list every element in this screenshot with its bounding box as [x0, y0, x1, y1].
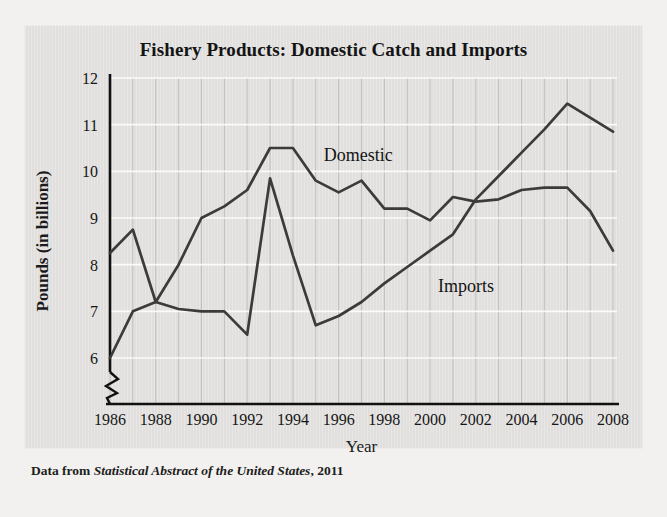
x-tick-label: 2006	[551, 411, 583, 428]
x-tick-label: 2008	[597, 411, 629, 428]
x-tick-label: 2002	[460, 411, 492, 428]
caption-lead: Data from	[31, 463, 94, 478]
axes	[106, 74, 619, 404]
y-tick-label: 6	[90, 350, 98, 367]
y-axis-title: Pounds (in billions)	[33, 171, 52, 312]
x-tick-label: 1990	[185, 411, 217, 428]
y-axis-tick-labels: 6789101112	[82, 70, 98, 367]
x-tick-label: 1988	[140, 411, 172, 428]
figure-container: Fishery Products: Domestic Catch and Imp…	[0, 0, 667, 517]
series-label-imports: Imports	[438, 276, 494, 296]
line-chart-plot: 6789101112198619881990199219941996199820…	[0, 0, 667, 517]
y-tick-label: 9	[90, 210, 98, 227]
x-tick-label: 1986	[94, 411, 126, 428]
caption-tail: , 2011	[310, 463, 343, 478]
x-tick-label: 1992	[231, 411, 263, 428]
series-label-domestic: Domestic	[324, 145, 393, 165]
x-tick-label: 2004	[506, 411, 538, 428]
x-axis-tick-labels: 1986198819901992199419961998200020022004…	[94, 411, 629, 428]
figure-caption: Data from Statistical Abstract of the Un…	[31, 463, 343, 479]
series-annotations: DomesticImports	[324, 145, 494, 296]
caption-source-title: Statistical Abstract of the United State…	[94, 463, 311, 478]
y-tick-label: 8	[90, 257, 98, 274]
x-axis-title: Year	[346, 437, 378, 456]
y-tick-label: 11	[83, 117, 98, 134]
x-tick-label: 1994	[277, 411, 309, 428]
x-tick-label: 1998	[368, 411, 400, 428]
y-tick-label: 12	[82, 70, 98, 87]
gridlines-vertical	[110, 78, 613, 404]
x-tick-label: 2000	[414, 411, 446, 428]
x-tick-label: 1996	[323, 411, 355, 428]
y-tick-label: 7	[90, 303, 98, 320]
y-tick-label: 10	[82, 163, 98, 180]
gridlines-horizontal	[110, 78, 617, 358]
